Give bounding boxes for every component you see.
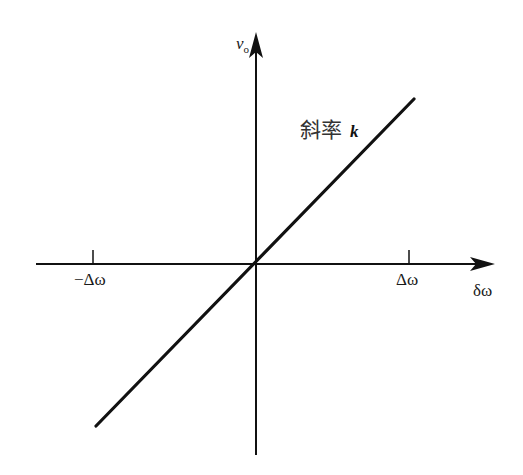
diagram-canvas: [0, 0, 523, 475]
tick-label-positive: Δω: [396, 270, 418, 290]
slope-text: 斜率: [300, 118, 342, 142]
slope-annotation: 斜率k: [300, 113, 359, 143]
x-axis-label: δω: [473, 281, 492, 301]
y-label-main: v: [236, 34, 244, 53]
y-label-sub: o: [244, 43, 250, 55]
y-axis-label: vo: [236, 34, 249, 55]
tick-label-negative: −Δω: [74, 270, 106, 290]
slope-variable: k: [350, 122, 359, 141]
